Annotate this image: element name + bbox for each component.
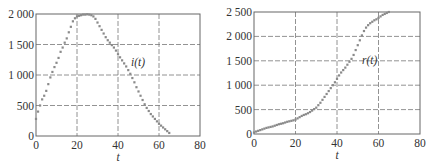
x-tick-label: 40 <box>112 139 124 151</box>
chart-infected: 05001 0001 5002 000020406080ti(t) <box>0 0 217 166</box>
x-tick-label: 60 <box>153 139 165 151</box>
series-label: i(t) <box>131 56 145 69</box>
chart-infected-svg: 05001 0001 5002 000020406080ti(t) <box>0 0 217 166</box>
x-tick-label: 0 <box>251 137 257 149</box>
y-tick-label: 2 000 <box>8 8 34 20</box>
x-tick-label: 40 <box>331 137 343 149</box>
x-tick-label: 60 <box>373 137 385 149</box>
x-tick-label: 80 <box>414 137 426 149</box>
chart-removed-svg: 05001 0001 5002 0002 500020406080tr(t) <box>217 0 434 166</box>
x-axis-label: t <box>335 149 339 161</box>
y-tick-label: 1 000 <box>226 79 252 91</box>
grid-lines <box>254 12 420 134</box>
x-axis-label: t <box>116 151 120 163</box>
x-tick-label: 20 <box>71 139 83 151</box>
data-points <box>253 11 390 134</box>
grid-lines <box>36 14 200 136</box>
y-tick-label: 500 <box>17 100 35 112</box>
y-tick-label: 1 500 <box>8 39 34 51</box>
x-tick-label: 0 <box>33 139 39 151</box>
x-tick-label: 20 <box>290 137 302 149</box>
x-tick-label: 80 <box>194 139 206 151</box>
chart-removed: 05001 0001 5002 0002 500020406080tr(t) <box>217 0 434 166</box>
y-tick-label: 500 <box>235 104 253 116</box>
y-tick-label: 2 500 <box>226 6 252 18</box>
data-points <box>35 13 170 134</box>
y-tick-label: 2 000 <box>226 30 252 42</box>
y-tick-label: 1 000 <box>8 69 34 81</box>
y-tick-label: 1 500 <box>226 55 252 67</box>
series-label: r(t) <box>362 54 378 67</box>
